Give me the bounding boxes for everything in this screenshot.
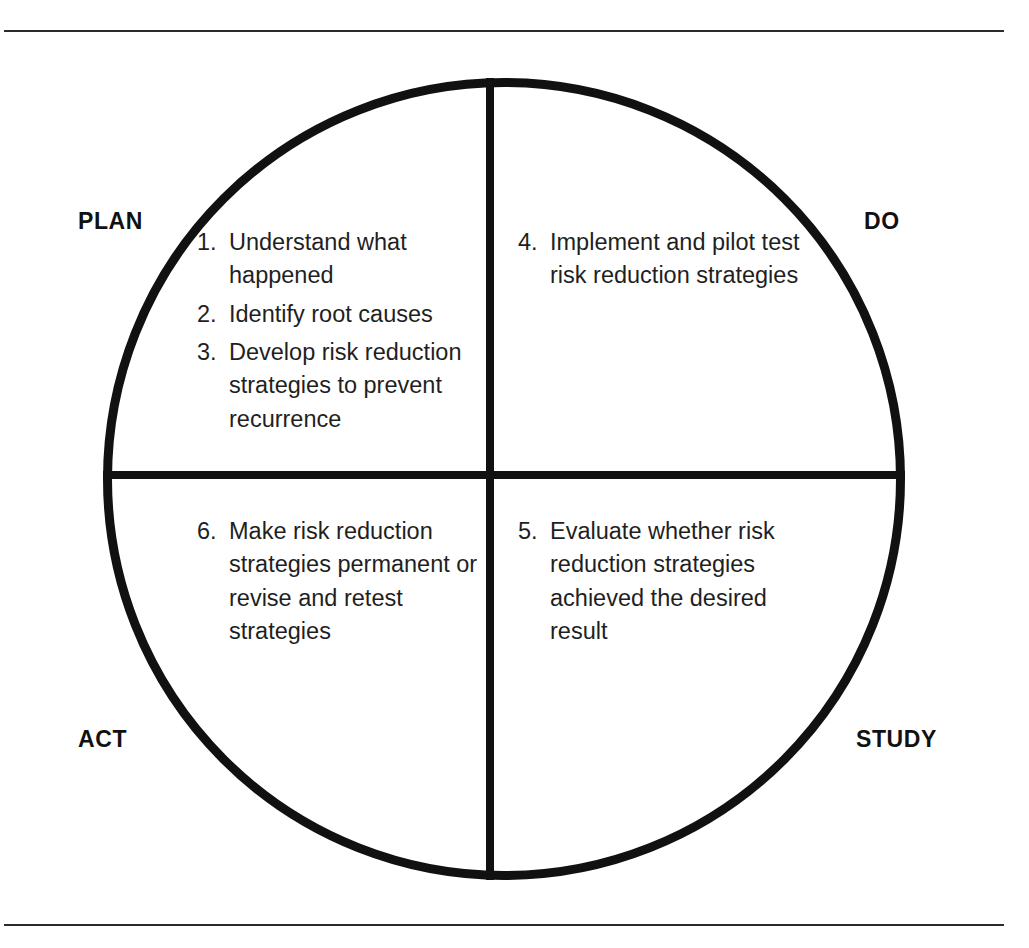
list-item-text: Make risk reduction strategies permanent… <box>229 515 479 648</box>
list-item: 6. Make risk reduction strategies perman… <box>197 515 479 648</box>
pdsa-cycle-circle <box>103 78 905 880</box>
page-canvas: PLAN DO ACT STUDY 1. Understand what hap… <box>0 0 1029 948</box>
page-top-rule <box>4 30 1004 32</box>
quadrant-label-act: ACT <box>78 726 127 753</box>
quadrant-list-plan: 1. Understand what happened 2. Identify … <box>197 226 469 436</box>
quadrant-divider-horizontal <box>103 471 905 479</box>
quadrant-divider-vertical <box>486 78 494 880</box>
list-item-number: 4. <box>518 226 550 259</box>
list-item-number: 5. <box>518 515 550 548</box>
list-item-number: 6. <box>197 515 229 548</box>
list-item-text: Understand what happened <box>229 226 469 293</box>
list-item-number: 3. <box>197 336 229 369</box>
quadrant-list-study: 5. Evaluate whether risk reduction strat… <box>518 515 803 648</box>
list-item-text: Develop risk reduction strategies to pre… <box>229 336 469 436</box>
list-item-text: Identify root causes <box>229 298 469 331</box>
quadrant-label-plan: PLAN <box>78 208 143 235</box>
list-item-number: 1. <box>197 226 229 259</box>
list-item: 4. Implement and pilot test risk reducti… <box>518 226 803 293</box>
list-item: 2. Identify root causes <box>197 298 469 331</box>
list-item: 1. Understand what happened <box>197 226 469 293</box>
list-item: 3. Develop risk reduction strategies to … <box>197 336 469 436</box>
quadrant-list-act: 6. Make risk reduction strategies perman… <box>197 515 479 648</box>
page-bottom-rule <box>4 924 1004 926</box>
list-item: 5. Evaluate whether risk reduction strat… <box>518 515 803 648</box>
quadrant-list-do: 4. Implement and pilot test risk reducti… <box>518 226 803 293</box>
list-item-text: Implement and pilot test risk reduction … <box>550 226 803 293</box>
list-item-text: Evaluate whether risk reduction strategi… <box>550 515 803 648</box>
list-item-number: 2. <box>197 298 229 331</box>
quadrant-label-study: STUDY <box>856 726 937 753</box>
quadrant-label-do: DO <box>864 208 900 235</box>
